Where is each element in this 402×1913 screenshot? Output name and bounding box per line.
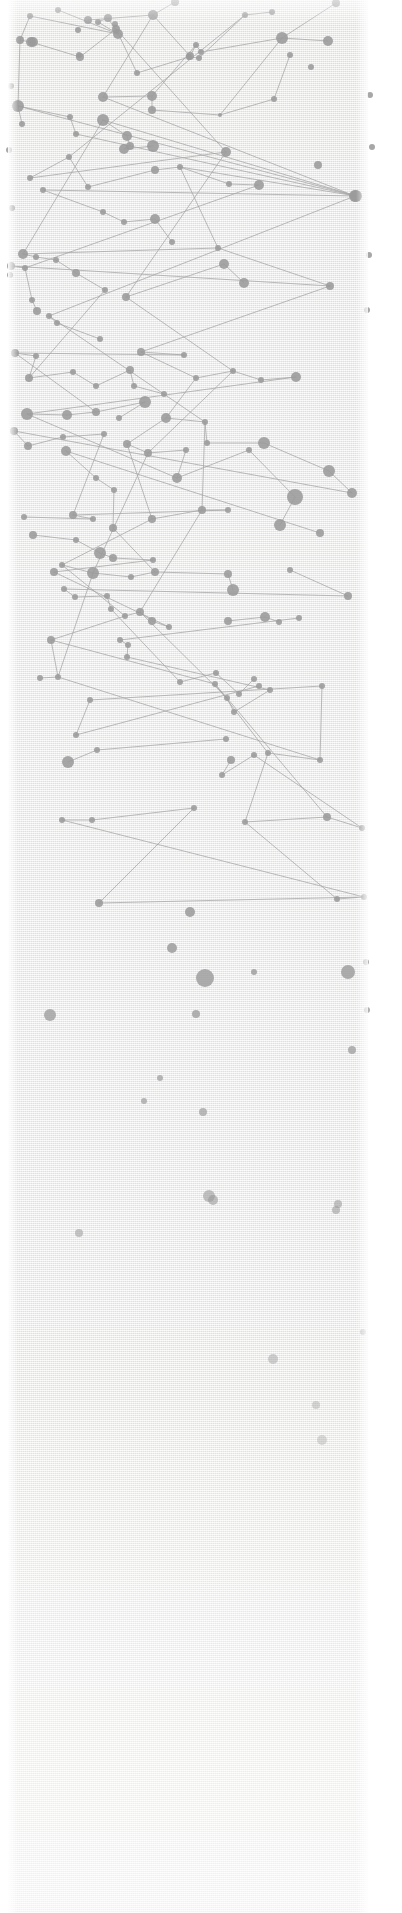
bottom-fade — [0, 0, 402, 1913]
page-root — [0, 0, 402, 1913]
network-graph — [0, 0, 402, 1913]
